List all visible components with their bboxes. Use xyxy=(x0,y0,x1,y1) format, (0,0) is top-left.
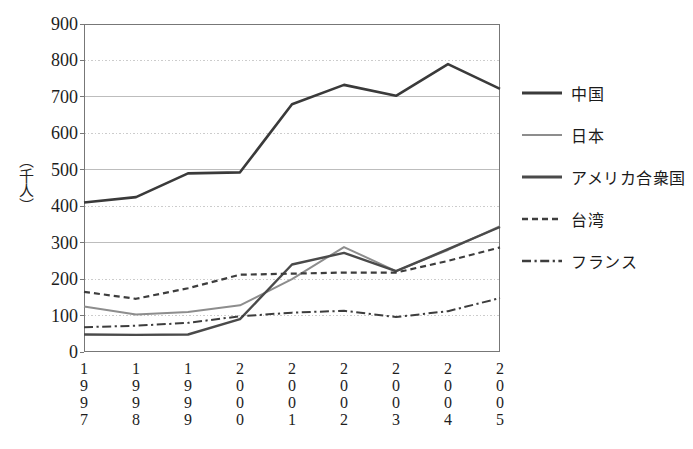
x-tick-1998: 1998 xyxy=(125,360,147,428)
x-tick-digit: 0 xyxy=(333,394,355,411)
x-tick-2003: 2003 xyxy=(385,360,407,428)
x-tick-digit: 0 xyxy=(437,377,459,394)
x-tick-1997: 1997 xyxy=(73,360,95,428)
legend-swatch-icon xyxy=(522,212,562,226)
x-tick-digit: 5 xyxy=(489,411,511,428)
x-tick-digit: 0 xyxy=(281,394,303,411)
legend-label: 中国 xyxy=(571,81,604,105)
x-tick-digit: 0 xyxy=(385,394,407,411)
line-chart: （千人） 900 800 700 600 500 400 300 200 100… xyxy=(0,0,693,449)
x-tick-digit: 3 xyxy=(385,411,407,428)
x-tick-digit: 9 xyxy=(73,377,95,394)
x-tick-digit: 8 xyxy=(125,411,147,428)
legend-label: 日本 xyxy=(571,123,604,147)
x-tick-digit: 9 xyxy=(125,394,147,411)
legend-label: 台湾 xyxy=(571,207,604,231)
x-tick-digit: 4 xyxy=(437,411,459,428)
legend-swatch-icon xyxy=(522,170,562,184)
legend-label: アメリカ合衆国 xyxy=(571,165,686,189)
x-tick-digit: 0 xyxy=(489,394,511,411)
x-tick-digit: 0 xyxy=(229,411,251,428)
x-tick-digit: 1 xyxy=(281,411,303,428)
x-tick-digit: 9 xyxy=(177,411,199,428)
x-tick-digit: 2 xyxy=(229,360,251,377)
x-tick-digit: 0 xyxy=(229,394,251,411)
x-tick-2004: 2004 xyxy=(437,360,459,428)
x-tick-digit: 0 xyxy=(229,377,251,394)
x-tick-digit: 0 xyxy=(437,394,459,411)
x-tick-2002: 2002 xyxy=(333,360,355,428)
x-tick-digit: 2 xyxy=(385,360,407,377)
legend-item-4[interactable]: フランス xyxy=(522,240,692,282)
x-tick-digit: 2 xyxy=(281,360,303,377)
series-line-4 xyxy=(84,298,500,327)
legend-swatch-icon xyxy=(522,254,562,268)
x-tick-2005: 2005 xyxy=(489,360,511,428)
x-tick-2001: 2001 xyxy=(281,360,303,428)
legend-item-1[interactable]: 日本 xyxy=(522,114,692,156)
x-tick-digit: 0 xyxy=(489,377,511,394)
x-tick-digit: 7 xyxy=(73,411,95,428)
x-tick-1999: 1999 xyxy=(177,360,199,428)
x-tick-digit: 1 xyxy=(177,360,199,377)
legend-label: フランス xyxy=(571,249,637,273)
x-tick-digit: 9 xyxy=(177,394,199,411)
x-tick-digit: 2 xyxy=(489,360,511,377)
x-tick-digit: 2 xyxy=(437,360,459,377)
x-tick-digit: 1 xyxy=(73,360,95,377)
series-line-2 xyxy=(84,227,500,335)
x-tick-digit: 9 xyxy=(125,377,147,394)
x-tick-digit: 9 xyxy=(177,377,199,394)
x-tick-digit: 1 xyxy=(125,360,147,377)
x-tick-digit: 0 xyxy=(333,377,355,394)
x-tick-digit: 2 xyxy=(333,411,355,428)
x-tick-digit: 9 xyxy=(73,394,95,411)
x-tick-2000: 2000 xyxy=(229,360,251,428)
legend-item-0[interactable]: 中国 xyxy=(522,72,692,114)
x-tick-digit: 0 xyxy=(281,377,303,394)
legend-swatch-icon xyxy=(522,128,562,142)
legend-swatch-icon xyxy=(522,86,562,100)
legend-item-3[interactable]: 台湾 xyxy=(522,198,692,240)
legend-item-2[interactable]: アメリカ合衆国 xyxy=(522,156,692,198)
x-tick-digit: 0 xyxy=(385,377,407,394)
plot-frame xyxy=(85,25,500,352)
series-line-1 xyxy=(84,226,500,314)
chart-legend: 中国日本アメリカ合衆国台湾フランス xyxy=(522,72,692,282)
x-tick-digit: 2 xyxy=(333,360,355,377)
